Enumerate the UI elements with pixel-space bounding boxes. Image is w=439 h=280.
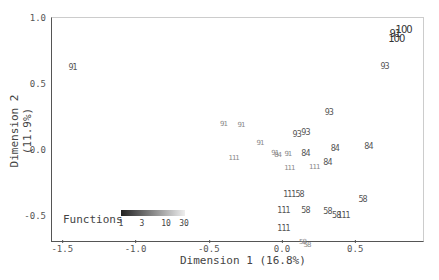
- data-point-label: 111: [228, 154, 238, 161]
- y-tick: 1.0: [0, 13, 46, 23]
- data-point-label: 84: [323, 159, 331, 167]
- data-point-label: 93: [325, 109, 333, 117]
- data-point-label: 58: [295, 191, 303, 199]
- data-point-label: 91: [68, 64, 76, 72]
- data-point-label: 58: [303, 242, 310, 249]
- data-point-label: 111: [277, 207, 289, 215]
- data-point-label: 84: [274, 152, 281, 159]
- data-point-label: 58: [323, 208, 331, 216]
- x-tick: 0.0: [274, 244, 290, 254]
- data-point-label: 84: [364, 143, 372, 151]
- x-tick: -1.5: [51, 244, 73, 254]
- legend-tick: 30: [179, 219, 189, 228]
- legend-tick: 1: [119, 219, 124, 228]
- data-point-label: 93: [380, 63, 388, 71]
- legend-gradient: [121, 210, 185, 216]
- y-axis-label: Dimension 2 (11.9%): [8, 76, 34, 186]
- x-tick: -1.0: [125, 244, 147, 254]
- data-point-label: 58: [358, 196, 366, 204]
- data-point-label: 111: [277, 225, 289, 233]
- data-point-label: 111: [337, 212, 349, 220]
- data-point-label: 100: [388, 34, 404, 44]
- legend-tick: 3: [140, 219, 145, 228]
- data-point-label: 58: [301, 207, 309, 215]
- legend-tick: 10: [161, 219, 171, 228]
- legend-title: Functions: [63, 213, 123, 226]
- y-tick: -0.5: [0, 211, 46, 221]
- data-point-label: 91: [284, 150, 291, 157]
- x-tick: 0.5: [347, 244, 363, 254]
- data-point-label: 111: [284, 165, 294, 172]
- data-point-label: 93: [293, 131, 301, 139]
- data-point-label: 84: [331, 145, 339, 153]
- data-point-label: 91: [220, 120, 227, 127]
- data-point-label: 93: [301, 129, 309, 137]
- data-point-label: 91: [238, 121, 245, 128]
- plot-area: [51, 17, 424, 242]
- data-point-label: 91: [257, 140, 264, 147]
- x-axis-label: Dimension 1 (16.8%): [180, 254, 306, 267]
- data-point-label: 111: [283, 191, 295, 199]
- data-point-label: 84: [301, 150, 309, 158]
- x-tick: -0.5: [198, 244, 220, 254]
- data-point-label: 111: [309, 164, 319, 171]
